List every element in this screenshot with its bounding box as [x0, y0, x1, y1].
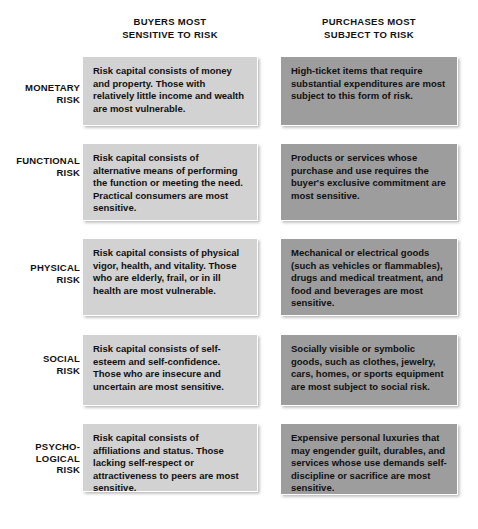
- row-label-psychological: PSYCHO- LOGICAL RISK: [0, 441, 80, 476]
- cell-monetary-purchases: High-ticket items that require substanti…: [280, 56, 458, 126]
- cell-psychological-purchases: Expensive personal luxuries that may eng…: [280, 423, 458, 495]
- row-label-social-line1: SOCIAL: [0, 353, 80, 365]
- cell-social-buyers-text: Risk capital consists of self-esteem and…: [93, 343, 248, 393]
- row-label-psychological-line2: LOGICAL: [0, 453, 80, 465]
- row-label-functional-line1: FUNCTIONAL: [0, 155, 80, 167]
- row-label-psychological-line1: PSYCHO-: [0, 441, 80, 453]
- matrix-row-physical: PHYSICAL RISK Risk capital consists of p…: [0, 238, 478, 316]
- cell-monetary-buyers: Risk capital consists of money and prope…: [82, 56, 258, 126]
- cell-social-purchases: Socially visible or symbolic goods, such…: [280, 334, 458, 406]
- row-label-physical-line2: RISK: [0, 274, 80, 286]
- row-label-monetary-line2: RISK: [0, 94, 80, 106]
- cell-psychological-buyers-text: Risk capital consists of affiliations an…: [93, 432, 248, 492]
- matrix-rows: MONETARY RISK Risk capital consists of m…: [0, 0, 478, 529]
- row-label-psychological-line3: RISK: [0, 464, 80, 476]
- row-label-physical-line1: PHYSICAL: [0, 262, 80, 274]
- row-label-functional-line2: RISK: [0, 167, 80, 179]
- cell-social-buyers: Risk capital consists of self-esteem and…: [82, 334, 258, 406]
- cell-functional-purchases: Products or services whose purchase and …: [280, 143, 458, 221]
- row-label-monetary: MONETARY RISK: [0, 82, 80, 105]
- cell-psychological-purchases-text: Expensive personal luxuries that may eng…: [291, 432, 448, 495]
- cell-social-purchases-text: Socially visible or symbolic goods, such…: [291, 343, 448, 393]
- matrix-row-monetary: MONETARY RISK Risk capital consists of m…: [0, 56, 478, 126]
- cell-functional-buyers-text: Risk capital consists of alternative mea…: [93, 152, 248, 215]
- row-label-physical: PHYSICAL RISK: [0, 262, 80, 285]
- cell-physical-purchases-text: Mechanical or electrical goods (such as …: [291, 247, 448, 310]
- matrix-row-social: SOCIAL RISK Risk capital consists of sel…: [0, 334, 478, 406]
- cell-monetary-purchases-text: High-ticket items that require substanti…: [291, 65, 448, 103]
- cell-functional-purchases-text: Products or services whose purchase and …: [291, 152, 448, 202]
- cell-physical-purchases: Mechanical or electrical goods (such as …: [280, 238, 458, 316]
- row-label-monetary-line1: MONETARY: [0, 82, 80, 94]
- row-label-functional: FUNCTIONAL RISK: [0, 155, 80, 178]
- cell-physical-buyers-text: Risk capital consists of physical vigor,…: [93, 247, 248, 297]
- matrix-row-functional: FUNCTIONAL RISK Risk capital consists of…: [0, 143, 478, 221]
- matrix-row-psychological: PSYCHO- LOGICAL RISK Risk capital consis…: [0, 423, 478, 495]
- perceived-risk-matrix: BUYERS MOST SENSITIVE TO RISK PURCHASES …: [0, 0, 478, 529]
- row-label-social: SOCIAL RISK: [0, 353, 80, 376]
- row-label-social-line2: RISK: [0, 365, 80, 377]
- cell-physical-buyers: Risk capital consists of physical vigor,…: [82, 238, 258, 316]
- cell-functional-buyers: Risk capital consists of alternative mea…: [82, 143, 258, 221]
- cell-psychological-buyers: Risk capital consists of affiliations an…: [82, 423, 258, 492]
- cell-monetary-buyers-text: Risk capital consists of money and prope…: [93, 65, 248, 115]
